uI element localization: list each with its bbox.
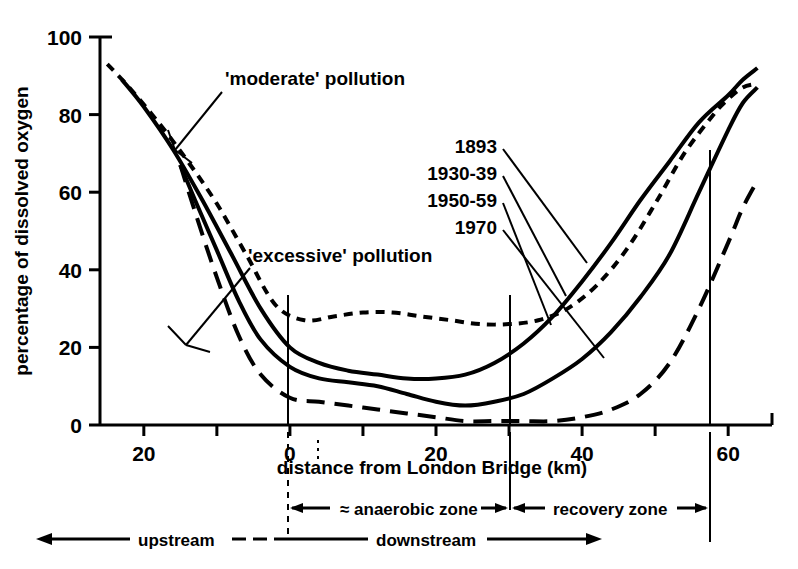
x-tick-label: 20 [132, 442, 155, 465]
arrow-left-upstream [36, 533, 52, 545]
arrow-right-recovery [695, 503, 708, 513]
x-axis-title: distance from London Bridge (km) [277, 457, 587, 478]
y-axis-title: percentage of dissolved oxygen [11, 86, 32, 375]
legend-leader-1930-39 [503, 176, 566, 296]
upstream-label: upstream [138, 531, 215, 550]
chart-figure: 020406080100 200204060 percentage of dis… [0, 0, 798, 569]
y-tick-label: 60 [59, 181, 82, 204]
downstream-label: downstream [376, 531, 476, 550]
legend-leader-1970 [503, 230, 604, 358]
y-tick-label: 40 [59, 259, 82, 282]
dissolved-oxygen-chart: 020406080100 200204060 percentage of dis… [0, 0, 798, 569]
arrow-right-downstream [586, 533, 602, 545]
legend: 1893 1930-39 1950-59 1970 [427, 136, 604, 358]
data-curves [107, 64, 757, 421]
zone-bar-upstream-downstream: upstream downstream [36, 531, 602, 550]
y-tick-label: 80 [59, 104, 82, 127]
excessive-pollution-label: 'excessive' pollution [248, 245, 432, 266]
arrow-right-anaerobic [495, 503, 508, 513]
moderate-leader-line [175, 92, 222, 150]
series-line-1930-39 [122, 68, 758, 379]
moderate-pollution-label: 'moderate' pollution [225, 68, 405, 89]
y-tick-label: 20 [59, 336, 82, 359]
legend-item-1970[interactable]: 1970 [455, 217, 497, 238]
excessive-pollution-annotation: 'excessive' pollution [168, 245, 432, 352]
recovery-zone-label: recovery zone [553, 500, 667, 519]
excessive-leader-bracket [168, 326, 210, 352]
y-axis-tick-labels: 020406080100 [47, 26, 82, 437]
legend-item-1950-59[interactable]: 1950-59 [427, 190, 497, 211]
moderate-pollution-annotation: 'moderate' pollution [168, 68, 405, 163]
anaerobic-zone-label: ≈ anaerobic zone [340, 500, 478, 519]
legend-item-1893[interactable]: 1893 [455, 136, 497, 157]
legend-item-1930-39[interactable]: 1930-39 [427, 163, 497, 184]
zone-boundary-lines [288, 150, 710, 542]
y-tick-label: 100 [47, 26, 82, 49]
arrow-left-recovery [512, 503, 525, 513]
x-tick-label: 60 [716, 442, 739, 465]
y-tick-label: 0 [70, 414, 82, 437]
zone-bar-anaerobic-recovery: ≈ anaerobic zone recovery zone [290, 500, 708, 519]
arrow-left-anaerobic [290, 503, 303, 513]
